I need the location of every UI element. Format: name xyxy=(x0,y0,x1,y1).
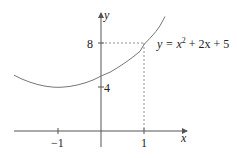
equation-label: y = x2 + 2x + 5 xyxy=(156,36,229,51)
x-axis-label: x xyxy=(180,131,187,145)
y-tick-label-8: 8 xyxy=(87,37,93,51)
x-tick-label-1: 1 xyxy=(141,136,147,150)
parabola-curve-line xyxy=(14,17,165,88)
y-tick-label-4: 4 xyxy=(104,81,110,95)
x-tick-label-minus1: −1 xyxy=(51,136,64,150)
equation-lhs: y = x xyxy=(156,37,182,51)
y-axis-label: y xyxy=(103,8,110,22)
parabola-curve xyxy=(14,16,165,90)
chart-canvas: y x 8 4 −1 1 y = x2 + 2x + 5 xyxy=(0,0,237,158)
equation-rhs: + 2x + 5 xyxy=(186,37,230,51)
